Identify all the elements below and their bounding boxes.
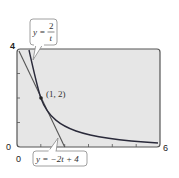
curve-eq-lhs: y = [32, 27, 45, 37]
y-top-label: 4 [10, 41, 15, 51]
intersection-point [39, 96, 43, 100]
point-label: (1, 2) [46, 89, 66, 99]
curve-eq-numerator: 2 [49, 21, 54, 31]
plot-area [17, 49, 160, 147]
chart-root: (1, 2) 4 0 0 6 y = 2 t y = −2t + 4 [0, 0, 179, 178]
x-left-label: 0 [16, 154, 21, 164]
x-right-label: 6 [163, 143, 168, 153]
y-bottom-label: 0 [6, 142, 11, 152]
line-eq-label: y = −2t + 4 [35, 154, 79, 164]
